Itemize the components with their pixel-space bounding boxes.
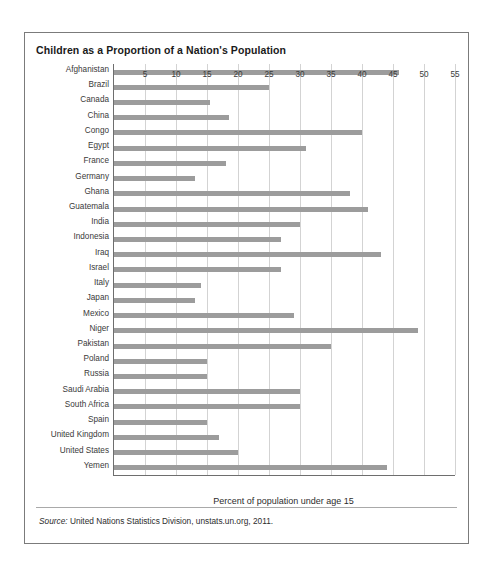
category-label-israel: Israel <box>89 262 109 274</box>
bar-row: Guatemala <box>114 201 455 216</box>
bar-row: South Africa <box>114 399 455 414</box>
bar-poland <box>114 359 207 364</box>
bar-united-states <box>114 450 238 455</box>
bar-italy <box>114 283 201 288</box>
category-label-yemen: Yemen <box>84 460 109 472</box>
bar-iraq <box>114 252 381 257</box>
bar-india <box>114 222 300 227</box>
category-label-poland: Poland <box>84 353 110 365</box>
bar-guatemala <box>114 207 368 212</box>
bar-row: United States <box>114 445 455 460</box>
bar-row: Iraq <box>114 247 455 262</box>
x-tick-label-5: 5 <box>143 70 148 79</box>
x-tick-label-40: 40 <box>357 70 366 79</box>
category-label-mexico: Mexico <box>83 308 109 320</box>
bar-row: Canada <box>114 94 455 109</box>
bar-canada <box>114 100 210 105</box>
bar-niger <box>114 328 418 333</box>
category-label-china: China <box>88 110 109 122</box>
category-label-niger: Niger <box>89 323 109 335</box>
bar-row: Mexico <box>114 308 455 323</box>
category-label-congo: Congo <box>85 125 109 137</box>
x-tick-label-35: 35 <box>326 70 335 79</box>
category-label-japan: Japan <box>87 292 109 304</box>
bar-japan <box>114 298 195 303</box>
bar-mexico <box>114 313 294 318</box>
x-tick-label-55: 55 <box>450 70 459 79</box>
source-note: Source: United Nations Statistics Divisi… <box>39 516 273 526</box>
bar-row: Afghanistan <box>114 64 455 79</box>
bar-row: Poland <box>114 353 455 368</box>
category-label-italy: Italy <box>94 277 109 289</box>
bar-row: Japan <box>114 292 455 307</box>
x-tick-label-10: 10 <box>171 70 180 79</box>
bar-row: Yemen <box>114 460 455 475</box>
bar-row: Congo <box>114 125 455 140</box>
bar-pakistan <box>114 344 331 349</box>
x-tick-label-15: 15 <box>202 70 211 79</box>
category-label-indonesia: Indonesia <box>73 231 109 243</box>
x-tick-label-45: 45 <box>388 70 397 79</box>
category-label-south-africa: South Africa <box>65 399 109 411</box>
plot-wrapper: AfghanistanBrazilCanadaChinaCongoEgyptFr… <box>25 62 470 502</box>
bar-row: United Kingdom <box>114 429 455 444</box>
chart-title: Children as a Proportion of a Nation's P… <box>36 44 286 56</box>
bar-germany <box>114 176 195 181</box>
category-label-germany: Germany <box>75 171 109 183</box>
bar-row: Spain <box>114 414 455 429</box>
category-label-egypt: Egypt <box>88 140 109 152</box>
category-label-united-states: United States <box>60 445 109 457</box>
category-label-spain: Spain <box>88 414 109 426</box>
category-label-india: India <box>91 216 109 228</box>
category-label-united-kingdom: United Kingdom <box>51 429 109 441</box>
x-axis-title: Percent of population under age 15 <box>113 496 454 506</box>
source-divider <box>36 507 457 508</box>
bar-row: France <box>114 155 455 170</box>
bar-spain <box>114 420 207 425</box>
bar-row: Saudi Arabia <box>114 384 455 399</box>
bar-row: India <box>114 216 455 231</box>
bar-row: Israel <box>114 262 455 277</box>
figure-container: Children as a Proportion of a Nation's P… <box>24 32 469 544</box>
gridline-55 <box>455 64 456 475</box>
x-tick-label-50: 50 <box>419 70 428 79</box>
bar-saudi-arabia <box>114 389 300 394</box>
bar-row: Niger <box>114 323 455 338</box>
bar-yemen <box>114 465 387 470</box>
x-tick-label-25: 25 <box>264 70 273 79</box>
bar-china <box>114 115 229 120</box>
bar-row: Brazil <box>114 79 455 94</box>
category-label-pakistan: Pakistan <box>78 338 109 350</box>
source-label: Source: <box>39 516 68 526</box>
bar-afghanistan <box>114 70 399 75</box>
bar-ghana <box>114 191 350 196</box>
bar-row: Germany <box>114 171 455 186</box>
bar-row: Russia <box>114 368 455 383</box>
bar-row: China <box>114 110 455 125</box>
bar-france <box>114 161 226 166</box>
bar-congo <box>114 130 362 135</box>
x-tick-label-30: 30 <box>295 70 304 79</box>
category-label-saudi-arabia: Saudi Arabia <box>63 384 109 396</box>
bar-israel <box>114 267 281 272</box>
bar-russia <box>114 374 207 379</box>
category-label-ghana: Ghana <box>84 186 109 198</box>
category-label-russia: Russia <box>84 368 109 380</box>
bar-egypt <box>114 146 306 151</box>
category-label-brazil: Brazil <box>89 79 109 91</box>
category-label-canada: Canada <box>80 94 109 106</box>
bar-united-kingdom <box>114 435 219 440</box>
bar-indonesia <box>114 237 281 242</box>
bar-row: Ghana <box>114 186 455 201</box>
source-text: United Nations Statistics Division, unst… <box>68 516 274 526</box>
bar-south-africa <box>114 404 300 409</box>
plot-area: AfghanistanBrazilCanadaChinaCongoEgyptFr… <box>113 64 455 476</box>
category-label-afghanistan: Afghanistan <box>66 64 109 76</box>
x-tick-label-20: 20 <box>233 70 242 79</box>
category-label-france: France <box>84 155 109 167</box>
category-label-guatemala: Guatemala <box>69 201 109 213</box>
bar-brazil <box>114 85 269 90</box>
bar-row: Italy <box>114 277 455 292</box>
bar-row: Egypt <box>114 140 455 155</box>
category-label-iraq: Iraq <box>95 247 109 259</box>
